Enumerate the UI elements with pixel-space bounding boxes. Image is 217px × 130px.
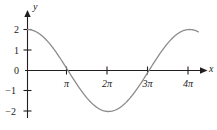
y-axis-label: y bbox=[33, 2, 37, 12]
x-axis bbox=[25, 67, 208, 73]
y-axis bbox=[24, 10, 30, 118]
y-tick-label-neg2: −2 bbox=[0, 107, 16, 117]
plot-canvas bbox=[0, 0, 217, 130]
y-tick-label-neg1: −1 bbox=[0, 86, 16, 96]
graph-figure: 2 1 0 −1 −2 π 2π 3π 4π y x bbox=[0, 0, 217, 130]
x-tick-label-4pi: 4π bbox=[177, 79, 199, 89]
x-tick-label-pi: π bbox=[56, 79, 78, 89]
y-tick-label-0: 0 bbox=[1, 66, 19, 76]
x-axis-label: x bbox=[209, 64, 213, 74]
x-tick-label-2pi: 2π bbox=[96, 79, 118, 89]
x-tick-label-3pi: 3π bbox=[137, 79, 159, 89]
y-tick-label-1: 1 bbox=[1, 46, 19, 56]
y-tick-label-2: 2 bbox=[1, 25, 19, 35]
